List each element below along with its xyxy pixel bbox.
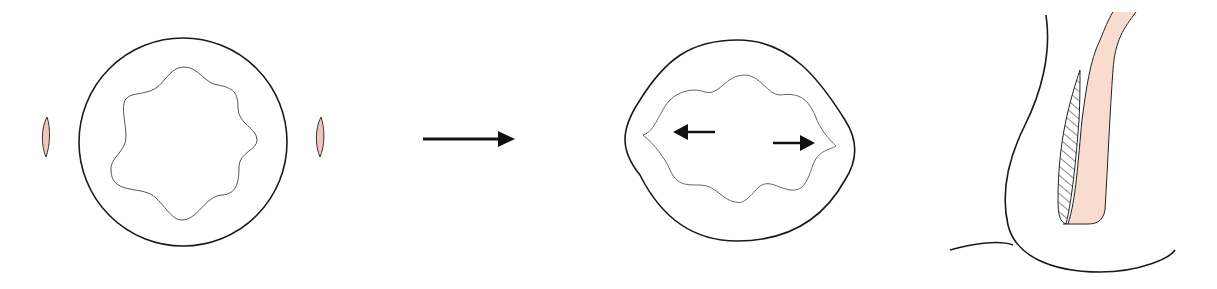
left-arrow [673,124,715,140]
wavy-inner-border [111,67,257,220]
panel-stretched [625,40,855,241]
transition-arrow [423,131,515,147]
outer-circle [79,38,287,246]
base-curve [950,243,1013,250]
right-arrow-head-icon [800,135,815,151]
left-pink-slit [42,117,49,157]
right-pink-slit [316,117,324,157]
diagram-canvas [0,0,1217,289]
panel-sagittal [950,12,1175,272]
panel-initial-circle [42,38,324,246]
arrow-head-icon [498,131,515,147]
outer-rounded-rhombus [625,40,855,241]
right-arrow [773,135,815,151]
left-arrow-head-icon [673,124,688,140]
